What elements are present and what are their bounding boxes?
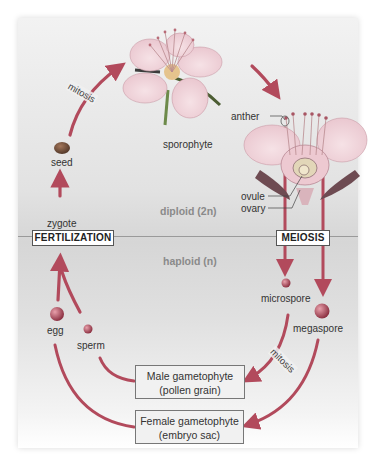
fertilization-stage-box: FERTILIZATION [32, 230, 114, 246]
male-gametophyte-box: Male gametophyte (pollen grain) [135, 365, 245, 399]
diploid-zone-label: diploid (2n) [160, 205, 217, 217]
arrow-gametes-to-fertilization [58, 262, 80, 312]
egg-illustration [50, 307, 64, 321]
female-gametophyte-subtitle: (embryo sac) [136, 428, 243, 442]
anther-label: anther [231, 111, 259, 123]
sperm-label: sperm [77, 340, 105, 352]
seed-label: seed [51, 157, 73, 169]
arrow-male-gametophyte-to-sperm [100, 358, 134, 381]
sporophyte-label: sporophyte [163, 139, 212, 151]
female-gametophyte-title: Female gametophyte [136, 414, 243, 428]
male-gametophyte-title: Male gametophyte [136, 369, 244, 383]
megaspore-illustration [315, 304, 330, 319]
arrow-megaspore-to-female-gametophyte [250, 340, 318, 424]
haploid-zone-label: haploid (n) [163, 255, 217, 267]
arrow-female-gametophyte-to-egg [55, 345, 134, 427]
zygote-label: zygote [47, 218, 76, 230]
microspore-illustration [282, 279, 291, 288]
microspore-label: microspore [261, 293, 310, 305]
egg-label: egg [47, 325, 64, 337]
megaspore-label: megaspore [293, 323, 343, 335]
ovary-label: ovary [241, 203, 265, 215]
sperm-illustration [84, 325, 93, 334]
female-gametophyte-box: Female gametophyte (embryo sac) [135, 410, 244, 444]
arrow-sporophyte-to-flower [252, 66, 275, 92]
meiosis-stage-box: MEIOSIS [276, 230, 330, 246]
sporophyte-flower-illustration [123, 29, 222, 125]
seed-illustration [54, 142, 70, 154]
ovule-label: ovule [241, 191, 265, 203]
male-gametophyte-subtitle: (pollen grain) [136, 383, 244, 397]
